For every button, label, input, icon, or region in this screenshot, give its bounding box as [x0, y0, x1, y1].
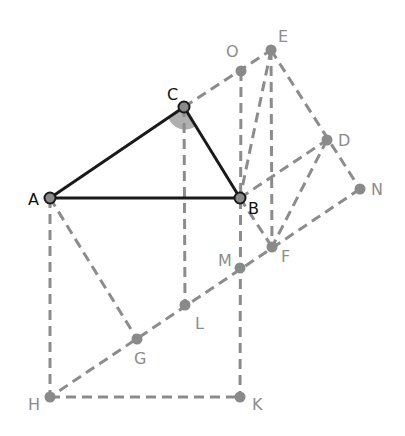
- label-O: O: [226, 42, 239, 61]
- label-E: E: [278, 27, 288, 46]
- label-G: G: [134, 349, 146, 368]
- point-D: [322, 135, 333, 146]
- geometry-diagram: A B C D E F G H K L M N O: [0, 0, 405, 436]
- label-H: H: [28, 395, 40, 414]
- label-L: L: [195, 314, 204, 333]
- point-K: [235, 392, 246, 403]
- point-C: [179, 102, 190, 113]
- labels: A B C D E F G H K L M N O: [28, 27, 383, 414]
- segment-AC: [50, 107, 184, 198]
- segment-BD: [240, 140, 327, 198]
- points: [45, 45, 366, 403]
- segment-CL: [184, 107, 185, 305]
- triangle-ABC: [50, 107, 240, 198]
- point-G: [132, 334, 143, 345]
- point-L: [180, 300, 191, 311]
- point-H: [45, 392, 56, 403]
- segment-EF: [271, 50, 272, 247]
- segment-CB: [184, 107, 240, 198]
- point-F: [267, 242, 278, 253]
- label-K: K: [252, 395, 263, 414]
- segment-OK: [240, 71, 241, 397]
- label-B: B: [248, 199, 259, 218]
- label-M: M: [218, 251, 232, 270]
- point-A: [45, 193, 56, 204]
- point-E: [266, 45, 277, 56]
- label-N: N: [371, 180, 383, 199]
- point-N: [355, 184, 366, 195]
- point-B: [235, 193, 246, 204]
- label-A: A: [28, 190, 39, 209]
- label-D: D: [338, 131, 350, 150]
- label-C: C: [167, 85, 178, 104]
- segment-NH: [50, 189, 360, 397]
- point-M: [235, 263, 246, 274]
- point-O: [236, 66, 247, 77]
- label-F: F: [281, 247, 290, 266]
- segment-AG: [50, 198, 137, 339]
- construction-lines: [50, 50, 360, 397]
